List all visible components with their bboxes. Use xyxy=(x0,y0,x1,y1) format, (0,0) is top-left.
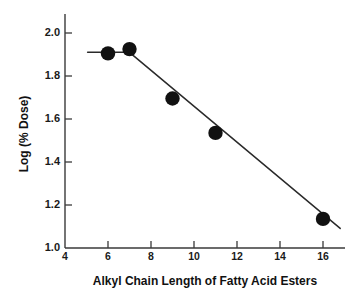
y-tick-label-1.8: 1.8 xyxy=(45,69,60,81)
x-axis-title: Alkyl Chain Length of Fatty Acid Esters xyxy=(93,274,318,288)
x-tick-label-16: 16 xyxy=(317,250,329,262)
data-point-group xyxy=(101,42,330,226)
data-point xyxy=(101,46,115,60)
data-point xyxy=(122,42,136,56)
x-tick-label-4: 4 xyxy=(62,250,68,262)
scatter-plot: Log (% Dose) 2.0 1.8 1.6 1.4 1.2 1.0 xyxy=(0,0,360,301)
x-tick-label-14: 14 xyxy=(274,250,286,262)
y-tick-marks xyxy=(65,33,72,205)
y-axis-title: Log (% Dose) xyxy=(17,96,31,173)
y-tick-label-2.0: 2.0 xyxy=(45,26,60,38)
y-tick-label-1.6: 1.6 xyxy=(45,112,60,124)
fit-line-descending-segment xyxy=(130,52,341,228)
data-point xyxy=(208,126,222,140)
y-tick-label-1.2: 1.2 xyxy=(45,198,60,210)
x-tick-label-8: 8 xyxy=(148,250,154,262)
fit-line-group xyxy=(88,52,341,228)
data-point xyxy=(316,212,330,226)
x-tick-label-10: 10 xyxy=(188,250,200,262)
x-tick-label-12: 12 xyxy=(231,250,243,262)
x-tick-label-6: 6 xyxy=(105,250,111,262)
data-point xyxy=(165,91,179,105)
chart-figure: Log (% Dose) 2.0 1.8 1.6 1.4 1.2 1.0 xyxy=(0,0,360,301)
x-tick-labels: 4 6 8 10 12 14 16 xyxy=(62,250,329,262)
x-tick-marks xyxy=(108,241,323,248)
y-tick-label-1.0: 1.0 xyxy=(45,241,60,253)
y-tick-labels: 2.0 1.8 1.6 1.4 1.2 1.0 xyxy=(45,26,61,253)
y-tick-label-1.4: 1.4 xyxy=(45,155,61,167)
